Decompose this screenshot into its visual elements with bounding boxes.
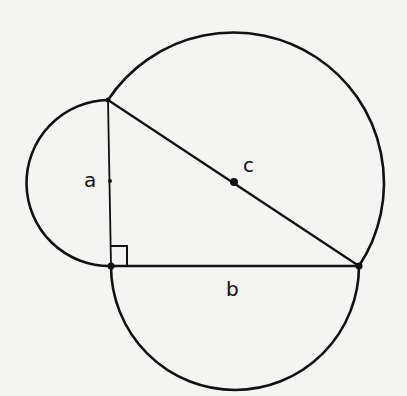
pythagorean-semicircles-diagram: a b c bbox=[0, 0, 407, 396]
right-angle-marker bbox=[111, 246, 127, 266]
label-b: b bbox=[226, 277, 239, 301]
midpoint-a bbox=[108, 179, 112, 183]
vertex-right bbox=[356, 263, 363, 270]
midpoint-c bbox=[230, 178, 238, 186]
side-a bbox=[108, 100, 111, 266]
label-c: c bbox=[243, 153, 254, 177]
vertex-top bbox=[106, 98, 111, 103]
semicircle-a bbox=[27, 100, 111, 266]
label-a: a bbox=[84, 168, 96, 192]
vertex-right-angle bbox=[108, 263, 115, 270]
semicircle-c bbox=[108, 33, 384, 266]
